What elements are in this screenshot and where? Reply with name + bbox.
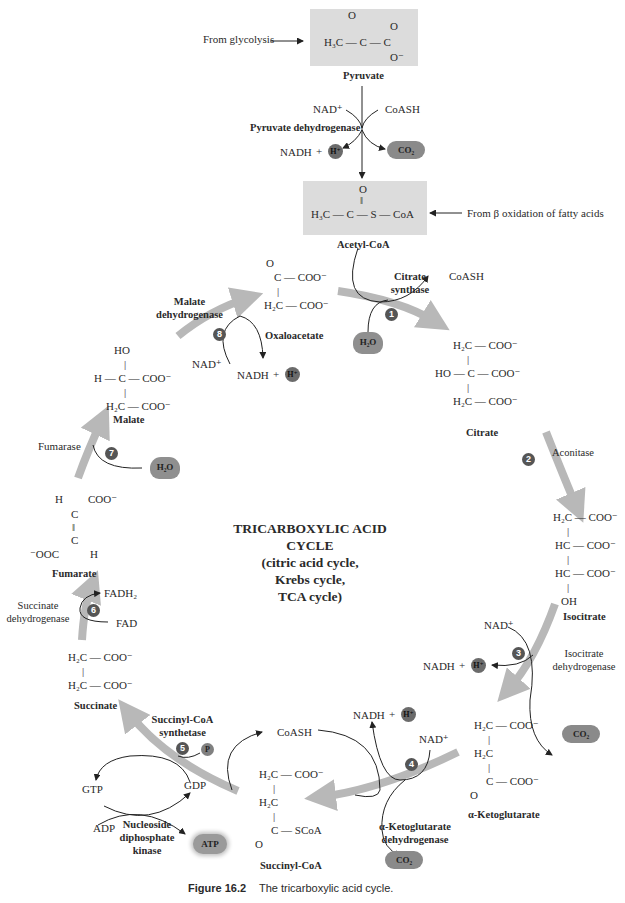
step3-nad: NAD⁺: [484, 619, 514, 632]
aconitase-label: Aconitase: [552, 447, 594, 458]
ndk-label: Nucleoside diphosphate kinase: [117, 818, 177, 857]
acetylcoa-label: Acetyl-CoA: [337, 239, 389, 250]
pdh-co2-icon: CO₂: [387, 141, 425, 159]
step4-hplus-icon: H⁺: [401, 707, 416, 722]
step1-h2o-icon: H₂O: [353, 332, 383, 354]
citrate-l4: H₂C — COO⁻: [453, 394, 520, 408]
malate-dh-line1: Malate: [147, 295, 232, 308]
acetylcoa-box: O ‖ H₃C — C — S — CoA: [303, 181, 427, 235]
gtp-gdp-curve: [104, 793, 190, 815]
cycle-title-line5: TCA cycle): [210, 588, 410, 605]
fumarate-h1: H: [55, 493, 63, 505]
malate-l3: |: [124, 385, 171, 399]
pdh-coash: CoASH: [385, 103, 420, 115]
malate-dh-line2: dehydrogenase: [147, 308, 232, 321]
isocitrate-label: Isocitrate: [563, 611, 606, 622]
atp-icon: ATP: [193, 834, 227, 854]
step3-nadh: NADH: [423, 660, 455, 672]
pyruvate-o1: O: [348, 9, 356, 21]
akg-label: α-Ketoglutarate: [468, 809, 540, 820]
sdh-line1: Succinate: [2, 599, 74, 612]
malate-l4: H₂C — COO⁻: [106, 399, 171, 413]
step-2-badge: 2: [522, 453, 535, 466]
isocitrate-dh-label: Isocitrate dehydrogenase: [548, 647, 620, 673]
fad-label: FAD: [116, 617, 137, 629]
akg-dh-line2: dehydrogenase: [370, 833, 460, 846]
citrate-synthase-line1: Citrate: [380, 270, 440, 283]
ndk-line1: Nucleoside: [117, 818, 177, 831]
malate-l2: H — C — COO⁻: [94, 371, 171, 385]
malate-label: Malate: [113, 414, 145, 425]
oaa-l1: C — COO⁻: [274, 270, 329, 284]
fumarase-label: Fumarase: [38, 440, 81, 452]
fumarate-c2: C: [71, 534, 78, 546]
succ-l2: H₂C — COO⁻: [68, 678, 133, 692]
cycle-title-line1: TRICARBOXYLIC ACID: [210, 520, 410, 537]
gdp-label: GDP: [184, 779, 206, 791]
step3-co2-icon: CO₂: [562, 725, 600, 743]
step7-curve: [93, 445, 142, 468]
oaa-l0: O: [266, 256, 329, 270]
from-glycolysis-label: From glycolysis: [203, 33, 274, 45]
oxaloacetate-structure: O C — COO⁻ | H₂C — COO⁻: [258, 256, 329, 312]
step-8-badge: 8: [213, 328, 226, 341]
oaa-l2: |: [277, 284, 329, 298]
scoa-l3: |: [273, 809, 324, 823]
malate-structure: HO | H — C — COO⁻ | H₂C — COO⁻: [94, 343, 171, 413]
acetylcoa-chain: H₃C — C — S — CoA: [311, 208, 414, 220]
isocitrate-dh-line1: Isocitrate: [548, 647, 620, 660]
figure-caption-text: The tricarboxylic acid cycle.: [259, 882, 394, 894]
akg-dh-line1: α-Ketoglutarate: [370, 820, 460, 833]
citrate-synthase-label: Citrate synthase: [380, 270, 440, 296]
succ-l1: |: [82, 664, 133, 678]
pyruvate-o2: O⁻: [390, 51, 404, 64]
pyruvate-chain: H₃C — C — C: [324, 36, 391, 48]
step-3-badge: 3: [512, 647, 525, 660]
malate-l0: HO: [114, 343, 171, 357]
scoa-l0: H₂C — COO⁻: [259, 767, 324, 781]
step4-co2-icon: CO₂: [385, 851, 423, 869]
akg-l0: H₂C — COO⁻: [474, 718, 539, 732]
step-1-badge: 1: [385, 308, 398, 321]
isocitrate-dh-line2: dehydrogenase: [548, 660, 620, 673]
citrate-l0: H₂C — COO⁻: [453, 338, 520, 352]
fumarate-c1: C: [71, 508, 78, 520]
pyruvate-box: O H₃C — C — C O⁻ O: [310, 9, 418, 66]
step-6-badge: 6: [87, 604, 100, 617]
oxaloacetate-label: Oxaloacetate: [265, 330, 323, 341]
fumarate-ooc: ⁻OOC: [30, 548, 59, 561]
akg-l1: |: [488, 732, 539, 746]
step-4-badge: 4: [405, 758, 418, 771]
akg-structure: H₂C — COO⁻ | H₂C | C — COO⁻ O: [470, 718, 539, 802]
step3-plus: +: [459, 659, 465, 671]
malate-l1: |: [124, 357, 171, 371]
oaa-l3: H₂C — COO⁻: [264, 298, 329, 312]
citrate-l1: |: [467, 352, 520, 366]
adp-label: ADP: [93, 822, 115, 834]
succinylcoa-structure: H₂C — COO⁻ | H₂C | C — SCoA O: [255, 767, 324, 851]
scs-line1: Succinyl-CoA: [145, 713, 220, 726]
citrate-l2: HO — C — COO⁻: [435, 366, 520, 380]
akg-l3: |: [488, 760, 539, 774]
succinylcoa-label: Succinyl-CoA: [260, 860, 322, 871]
step-5-badge: 5: [176, 742, 189, 755]
scoa-l2: H₂C: [259, 795, 324, 809]
cycle-arrow-7: [78, 420, 102, 478]
phosphate-icon: P: [201, 743, 214, 756]
akg-l5: O: [470, 788, 539, 802]
step7-h2o-icon: H₂O: [150, 457, 180, 479]
pyruvate-label: Pyruvate: [343, 70, 384, 81]
pdh-nadh: NADH: [280, 146, 312, 158]
step-7-badge: 7: [105, 447, 118, 460]
step8-plus: +: [273, 368, 279, 380]
scoa-l5: O: [255, 837, 324, 851]
fadh2-label: FADH₂: [104, 587, 137, 599]
co2-out-curve: [362, 130, 385, 149]
akg-l4: C — COO⁻: [486, 774, 539, 788]
fumarate-label: Fumarate: [52, 568, 96, 579]
succinate-structure: H₂C — COO⁻ | H₂C — COO⁻: [68, 650, 133, 692]
iso-l0: H₂C — COO⁻: [553, 510, 618, 524]
cycle-title-line3: (citric acid cycle,: [210, 554, 410, 571]
succinylcoa-coash: CoASH: [277, 726, 312, 738]
ndk-line2: diphosphate: [117, 831, 177, 844]
